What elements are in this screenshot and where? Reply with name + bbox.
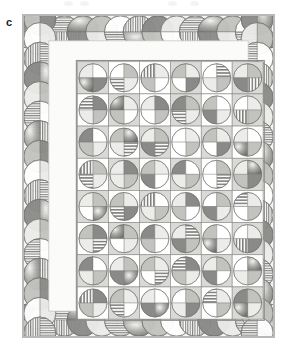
quilt-block: [78, 126, 109, 158]
quilt-block: [201, 287, 232, 319]
quilt-block: [108, 223, 139, 255]
quilt-block: [170, 94, 201, 126]
quilt-block: [78, 223, 109, 255]
quilt-block-grid: [76, 61, 264, 321]
quilt-block: [78, 255, 109, 287]
quilt-block: [78, 62, 109, 94]
quilt-block: [232, 158, 263, 190]
quilt-block: [201, 126, 232, 158]
quilt-block: [201, 223, 232, 255]
quilt-block: [108, 62, 139, 94]
quilt-block: [139, 62, 170, 94]
quilt-block: [232, 190, 263, 222]
quilt-block: [139, 190, 170, 222]
quilt-block: [201, 255, 232, 287]
quilt-block: [78, 190, 109, 222]
quilt-block: [232, 255, 263, 287]
quilt-block: [170, 287, 201, 319]
quilt-block: [108, 94, 139, 126]
quilt-block: [170, 190, 201, 222]
quilt-block: [139, 126, 170, 158]
quilt-block: [108, 287, 139, 319]
quilt-block: [170, 158, 201, 190]
quilt-block: [139, 94, 170, 126]
quilt-block: [170, 62, 201, 94]
quilt-block: [108, 190, 139, 222]
quilt-block: [170, 255, 201, 287]
quilt-block: [78, 287, 109, 319]
quilt-block: [201, 190, 232, 222]
quilt-block: [232, 287, 263, 319]
quilt-block: [78, 94, 109, 126]
quilt-block: [201, 62, 232, 94]
quilt-block: [201, 158, 232, 190]
quilt-block: [78, 158, 109, 190]
page-top-artifact: [64, 0, 214, 7]
quilt-block: [232, 62, 263, 94]
quilt-block: [108, 126, 139, 158]
quilt-block: [170, 223, 201, 255]
panel-label: c: [6, 17, 12, 28]
quilt-diagram: [23, 15, 274, 337]
quilt-block: [139, 255, 170, 287]
quilt-block: [139, 158, 170, 190]
quilt-block: [232, 126, 263, 158]
quilt-block: [108, 255, 139, 287]
quilt-block: [139, 287, 170, 319]
quilt-block: [232, 94, 263, 126]
quilt-block: [201, 94, 232, 126]
quilt-block: [139, 223, 170, 255]
quilt-figure: [22, 14, 275, 338]
quilt-block: [108, 158, 139, 190]
quilt-block: [232, 223, 263, 255]
quilt-block: [170, 126, 201, 158]
